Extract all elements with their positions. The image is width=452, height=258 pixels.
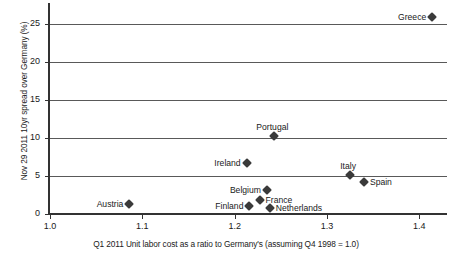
y-tick-label: 0 <box>10 208 40 218</box>
x-tick-label: 1.2 <box>215 221 255 231</box>
gridline <box>50 100 447 101</box>
data-point-label: Netherlands <box>276 203 322 213</box>
data-point-marker <box>124 199 134 209</box>
data-point-marker <box>345 170 355 180</box>
y-axis-line <box>48 3 50 215</box>
data-point-label: Belgium <box>230 185 261 195</box>
gridline <box>50 24 447 25</box>
x-tick-mark <box>142 215 143 219</box>
y-tick-mark <box>45 138 49 139</box>
data-point-label: Austria <box>97 199 124 209</box>
x-tick-mark <box>327 215 328 219</box>
data-point-marker <box>242 158 252 168</box>
y-tick-mark <box>45 214 49 215</box>
data-point-label: Italy <box>340 161 356 171</box>
y-tick-label: 20 <box>10 56 40 66</box>
x-axis-line <box>48 213 447 215</box>
y-tick-mark <box>45 176 49 177</box>
data-point-marker <box>255 195 265 205</box>
data-point-marker <box>359 177 369 187</box>
y-tick-label: 5 <box>10 170 40 180</box>
y-tick-label: 10 <box>10 132 40 142</box>
data-point-marker <box>427 12 437 22</box>
data-point-label: Portugal <box>256 122 288 132</box>
x-tick-mark <box>50 215 51 219</box>
data-point-label: Greece <box>398 12 426 22</box>
data-point-marker <box>269 131 279 141</box>
x-axis-title: Q1 2011 Unit labor cost as a ratio to Ge… <box>0 239 452 249</box>
y-tick-label: 15 <box>10 94 40 104</box>
gridline <box>50 62 447 63</box>
y-tick-mark <box>45 24 49 25</box>
y-tick-label: 25 <box>10 18 40 28</box>
x-tick-mark <box>419 215 420 219</box>
scatter-chart: Nov 29 2011 10yr spread over Germany (%)… <box>0 0 452 258</box>
x-tick-label: 1.1 <box>122 221 162 231</box>
x-tick-mark <box>235 215 236 219</box>
data-point-label: Spain <box>370 177 392 187</box>
x-tick-label: 1.4 <box>399 221 439 231</box>
data-point-label: Ireland <box>214 158 240 168</box>
x-tick-label: 1.3 <box>307 221 347 231</box>
data-point-label: Finland <box>215 201 243 211</box>
gridline <box>50 138 447 139</box>
y-tick-mark <box>45 100 49 101</box>
data-point-marker <box>244 201 254 211</box>
x-tick-label: 1.0 <box>30 221 70 231</box>
y-tick-mark <box>45 62 49 63</box>
